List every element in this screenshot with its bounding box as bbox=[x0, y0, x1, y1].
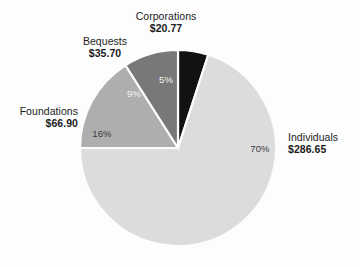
callout-bequests: Bequests $35.70 bbox=[83, 35, 127, 60]
pie-slice-group bbox=[80, 50, 276, 246]
callout-corporations-label: Corporations bbox=[136, 10, 197, 22]
callout-bequests-label: Bequests bbox=[83, 35, 127, 47]
callout-corporations-value: $20.77 bbox=[136, 22, 197, 34]
callout-foundations-label: Foundations bbox=[8, 105, 78, 117]
callout-individuals: Individuals $286.65 bbox=[288, 131, 338, 156]
callout-individuals-value: $286.65 bbox=[288, 143, 338, 155]
callout-individuals-label: Individuals bbox=[288, 131, 338, 143]
pie-chart: 70% 16% 9% 5% Corporations $20.77 Beques… bbox=[0, 0, 360, 267]
callout-foundations: Foundations $66.90 bbox=[8, 105, 78, 130]
callout-corporations: Corporations $20.77 bbox=[136, 10, 197, 35]
callout-foundations-value: $66.90 bbox=[8, 117, 78, 129]
callout-bequests-value: $35.70 bbox=[83, 47, 127, 59]
